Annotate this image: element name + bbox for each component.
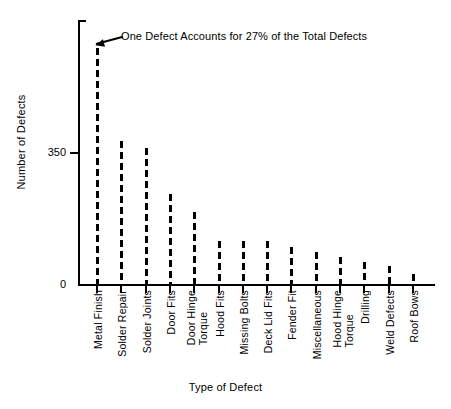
bar-drilling bbox=[363, 262, 366, 284]
y-tick-350 bbox=[70, 152, 78, 154]
annotation-label: One Defect Accounts for 27% of the Total… bbox=[121, 30, 367, 43]
x-label-miscellaneous: Miscellaneous bbox=[312, 290, 323, 359]
bar-hood-hinge-torque bbox=[339, 257, 342, 284]
x-label-roof-bows: Roof Bows bbox=[409, 290, 420, 343]
y-axis-top-cap bbox=[78, 20, 86, 22]
x-label-deck-lid-fits: Deck Lid Fits bbox=[263, 290, 274, 353]
bar-roof-bows bbox=[412, 274, 415, 284]
x-label-solder-repair: Solder Repair bbox=[117, 290, 128, 357]
x-axis-title: Type of Defect bbox=[0, 381, 451, 393]
bar-door-hinge-torque bbox=[193, 212, 196, 284]
x-label-hood-fits: Hood Fits bbox=[215, 290, 226, 337]
bar-miscellaneous bbox=[315, 252, 318, 284]
x-label-drilling: Drilling bbox=[360, 290, 371, 324]
y-tick-label-350: 350 bbox=[26, 147, 66, 158]
bar-metal-finish bbox=[96, 48, 99, 284]
y-axis-line bbox=[78, 20, 80, 286]
x-label-fender-fit: Fender Fit bbox=[287, 290, 298, 340]
y-axis-title: Number of Defects bbox=[15, 82, 27, 202]
bar-solder-repair bbox=[120, 141, 123, 284]
pareto-chart: 350 0 Number of Defects Type of Defect M… bbox=[0, 0, 451, 409]
x-label-solder-joints: Solder Joints bbox=[142, 290, 153, 353]
bar-solder-joints bbox=[145, 148, 148, 284]
bar-hood-fits bbox=[218, 241, 221, 284]
annotation-arrow-icon bbox=[94, 39, 105, 49]
bar-deck-lid-fits bbox=[266, 241, 269, 284]
x-label-hood-hinge-torque: Hood Hinge Torque bbox=[331, 290, 355, 347]
x-label-missing-bolts: Missing Bolts bbox=[239, 290, 250, 354]
x-axis-line bbox=[78, 284, 435, 286]
x-label-weld-defects: Weld Defects bbox=[385, 290, 396, 355]
bar-missing-bolts bbox=[242, 241, 245, 284]
bar-fender-fit bbox=[290, 247, 293, 284]
bar-weld-defects bbox=[388, 266, 391, 284]
x-label-metal-finish: Metal Finish bbox=[93, 290, 104, 349]
bar-door-fits bbox=[169, 194, 172, 284]
x-label-door-hinge-torque: Door Hinge Torque bbox=[185, 290, 209, 345]
x-label-door-fits: Door Fits bbox=[166, 290, 177, 334]
y-tick-label-0: 0 bbox=[26, 279, 66, 290]
